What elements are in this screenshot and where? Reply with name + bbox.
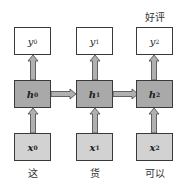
input-word-0: 这 xyxy=(14,165,51,180)
arrow-h1-h2 xyxy=(113,89,138,99)
hidden-node-h1: h1 xyxy=(76,80,113,108)
input-node-x2: x2 xyxy=(136,133,173,161)
arrow-x1-h1 xyxy=(90,108,100,133)
hidden-node-h0: h0 xyxy=(14,80,51,108)
output-node-y2: y2 xyxy=(136,27,173,55)
input-node-x1: x1 xyxy=(76,133,113,161)
output-node-y1: y1 xyxy=(76,27,113,55)
arrow-x0-h0 xyxy=(28,108,38,133)
input-node-x0: x0 xyxy=(14,133,51,161)
arrow-h2-y2 xyxy=(149,55,159,80)
hidden-node-h2: h2 xyxy=(136,80,173,108)
input-word-2: 可以 xyxy=(136,165,173,180)
arrow-h1-y1 xyxy=(90,55,100,80)
arrow-h0-y0 xyxy=(28,55,38,80)
output-node-y0: y0 xyxy=(14,27,51,55)
input-word-1: 货 xyxy=(76,165,113,180)
arrow-x2-h2 xyxy=(149,108,159,133)
arrow-h0-h1 xyxy=(51,89,76,99)
